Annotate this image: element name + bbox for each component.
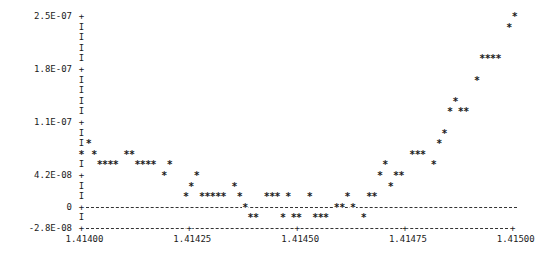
data-point-star: * [442,128,448,138]
y-axis-tick-mark: + [79,11,84,21]
data-point-star: * [151,160,157,170]
x-axis-tick-mark: + [402,223,407,233]
data-point-star: * [86,139,92,149]
data-point-star: * [388,181,394,191]
y-axis-segment: I [79,53,84,63]
y-axis-segment: I [79,32,84,42]
y-tick-label: 4.2E-08 [34,170,72,180]
data-point-star: * [221,192,227,202]
y-axis-tick-mark: + [79,170,84,180]
data-point-star: * [447,107,453,117]
data-point-star: * [237,192,243,202]
data-point-star: * [307,192,313,202]
x-axis-tick-mark: + [294,223,299,233]
y-axis-segment: I [79,22,84,32]
y-axis-segment: I [79,159,84,169]
data-point-star: * [231,181,237,191]
data-point-star: * [463,107,469,117]
data-point-star: * [339,202,345,212]
y-axis-segment: I [79,191,84,201]
data-point-star: * [296,213,302,223]
x-tick-label: 1.41400 [66,234,104,244]
x-tick-label: 1.41475 [389,234,427,244]
data-point-star: * [242,202,248,212]
data-point-star: * [361,213,367,223]
data-point-star: * [78,149,84,159]
x-tick-label: 1.41450 [281,234,319,244]
y-axis-tick-mark: + [79,64,84,74]
x-axis-tick-mark: + [187,223,192,233]
data-point-star: * [194,171,200,181]
y-tick-label: 0 [67,202,72,212]
y-axis-segment: I [79,181,84,191]
y-tick-label: -2.8E-08 [29,223,72,233]
data-point-star: * [285,192,291,202]
y-axis-tick-mark: + [79,117,84,127]
y-axis-tick-mark: + [79,223,84,233]
data-point-star: * [188,181,194,191]
y-axis-segment: I [79,106,84,116]
x-tick-label: 1.41500 [497,234,535,244]
data-point-star: * [452,96,458,106]
y-axis-segment: I [79,212,84,222]
data-point-star: * [167,160,173,170]
data-point-star: * [253,213,259,223]
y-axis-segment: I [79,75,84,85]
data-point-star: * [372,192,378,202]
data-point-star: * [280,213,286,223]
y-tick-label: 1.1E-07 [34,117,72,127]
y-axis-segment: I [79,128,84,138]
data-point-star: * [350,202,356,212]
data-point-star: * [431,160,437,170]
data-point-star: * [183,192,189,202]
data-point-star: * [398,171,404,181]
data-point-star: * [161,171,167,181]
data-point-star: * [323,213,329,223]
zero-line [86,207,517,208]
data-point-star: * [377,171,383,181]
x-axis-tick-mark: + [510,223,515,233]
data-point-star: * [129,149,135,159]
data-point-star: * [91,149,97,159]
y-axis-segment: I [79,85,84,95]
y-axis-segment: I [79,96,84,106]
y-axis-segment: I [79,43,84,53]
data-point-star: * [496,54,502,64]
y-axis-tick-mark: + [79,202,84,212]
data-point-star: * [474,75,480,85]
data-point-star: * [436,139,442,149]
data-point-star: * [345,192,351,202]
y-tick-label: 1.8E-07 [34,64,72,74]
y-tick-label: 2.5E-07 [34,11,72,21]
y-axis-segment: I [79,138,84,148]
x-tick-label: 1.41425 [173,234,211,244]
line-printer-plot: 2.5E-071.8E-071.1E-074.2E-080-2.8E-08+II… [0,0,559,256]
data-point-star: * [113,160,119,170]
data-point-star: * [506,22,512,32]
data-point-star: * [512,12,518,22]
data-point-star: * [382,160,388,170]
data-point-star: * [420,149,426,159]
data-point-star: * [275,192,281,202]
